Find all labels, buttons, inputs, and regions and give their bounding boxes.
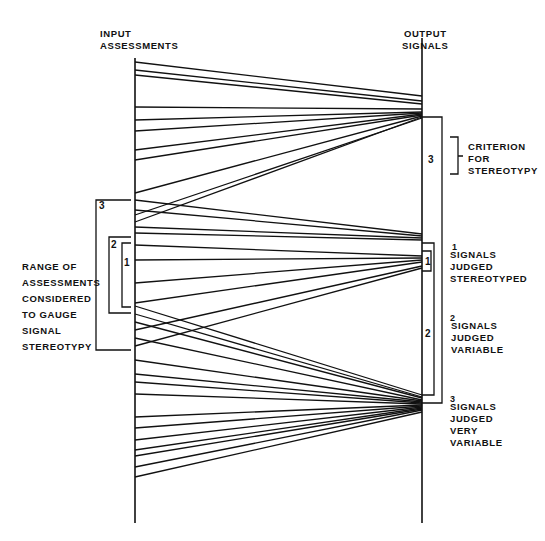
right-box-2-label: 2 xyxy=(425,328,431,339)
left-bracket-2-label: 2 xyxy=(111,239,117,250)
criterion-bracket xyxy=(450,137,463,174)
connection-line xyxy=(135,338,422,400)
connection-line xyxy=(135,245,422,256)
connection-line xyxy=(135,407,422,440)
output-signals-header: OUTPUT SIGNALS xyxy=(402,28,448,52)
left-bracket-1-label: 1 xyxy=(124,257,130,268)
legend-3-text: SIGNALS JUDGED VERY VARIABLE xyxy=(450,401,503,449)
connection-line xyxy=(135,107,422,109)
left-bracket-3-label: 3 xyxy=(99,200,105,211)
connection-line xyxy=(135,322,422,398)
connection-line xyxy=(135,262,422,303)
connection-line xyxy=(135,410,422,467)
range-of-assessments-label: RANGE OF ASSESSMENTS CONSIDERED TO GAUGE… xyxy=(22,259,100,355)
connection-line xyxy=(135,258,422,260)
connection-line xyxy=(135,116,422,193)
connection-line xyxy=(135,266,422,330)
left-bracket-3 xyxy=(96,200,131,350)
connection-line xyxy=(135,405,422,417)
right-box-3-label: 3 xyxy=(428,154,434,165)
connection-lines xyxy=(135,62,422,477)
criterion-for-stereotypy-label: CRITERION FOR STEREOTYPY xyxy=(468,141,538,177)
connection-line xyxy=(135,408,422,450)
connection-line xyxy=(135,406,422,428)
connection-line xyxy=(135,412,422,477)
legend-1-text: SIGNALS JUDGED STEREOTYPED xyxy=(450,249,527,285)
connection-line xyxy=(135,70,422,101)
right-box-1-label: 1 xyxy=(425,256,431,267)
input-assessments-header: INPUT ASSESSMENTS xyxy=(100,28,178,52)
connection-line xyxy=(135,306,422,395)
connection-line xyxy=(135,409,422,456)
left-bracket-1 xyxy=(122,243,131,307)
connection-line xyxy=(135,374,422,402)
legend-2-text: SIGNALS JUDGED VARIABLE xyxy=(451,320,504,356)
connection-line xyxy=(135,117,422,222)
